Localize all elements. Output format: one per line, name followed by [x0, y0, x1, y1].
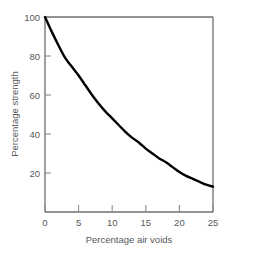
- percentage-strength-vs-air-voids-chart: 100 80 60 40 20 0 5 10 15 20 25 Percenta…: [0, 0, 257, 259]
- chart-figure: 100 80 60 40 20 0 5 10 15 20 25 Percenta…: [0, 0, 257, 259]
- y-tick-label-40: 40: [29, 129, 40, 140]
- y-tick-label-20: 20: [29, 168, 40, 179]
- x-tick-label-5: 5: [76, 217, 81, 228]
- y-tick-label-80: 80: [29, 51, 40, 62]
- x-axis-title: Percentage air voids: [86, 234, 173, 245]
- y-tick-label-100: 100: [24, 12, 40, 23]
- y-tick-label-60: 60: [29, 90, 40, 101]
- x-tick-label-25: 25: [208, 217, 219, 228]
- x-tick-label-10: 10: [107, 217, 118, 228]
- y-axis-title: Percentage strength: [9, 71, 20, 157]
- x-tick-label-20: 20: [174, 217, 185, 228]
- x-tick-label-15: 15: [141, 217, 152, 228]
- x-tick-label-0: 0: [42, 217, 47, 228]
